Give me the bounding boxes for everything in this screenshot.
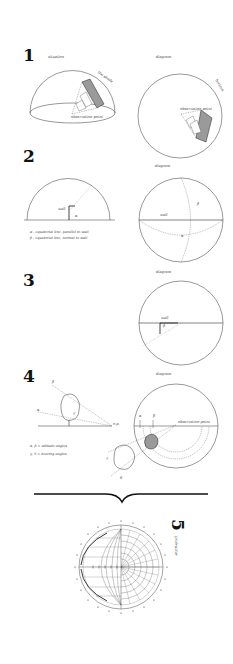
section-number-5: 5 bbox=[169, 519, 186, 531]
sun-path-protractor bbox=[0, 0, 233, 664]
protractor-caption: protractor bbox=[174, 536, 178, 556]
